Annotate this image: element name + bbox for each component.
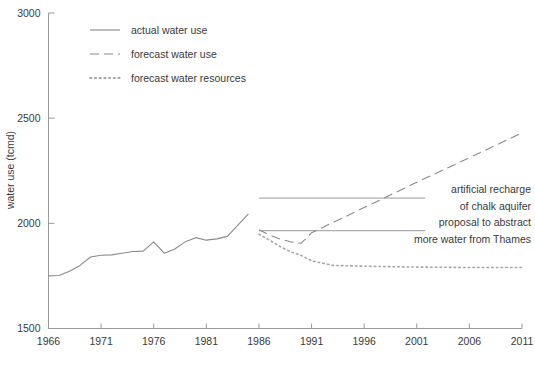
chart-container: 1500200025003000 19661971197619811986199… (0, 0, 535, 366)
x-tick-label: 1991 (300, 335, 324, 347)
x-tick-label: 1971 (89, 335, 113, 347)
x-axis-ticks (49, 324, 523, 329)
annotation-text-artificial-recharge-line2: of chalk aquifer (460, 200, 532, 212)
water-use-line-chart: 1500200025003000 19661971197619811986199… (0, 0, 535, 366)
data-series-group (49, 133, 523, 276)
y-axis-title: water use (tcmd) (4, 131, 16, 210)
y-axis-ticks (49, 13, 55, 329)
x-tick-label: 1966 (37, 335, 61, 347)
legend-label-0: actual water use (131, 24, 208, 36)
legend-label-2: forecast water resources (131, 72, 246, 84)
x-tick-label: 1976 (142, 335, 166, 347)
x-tick-label: 2011 (511, 335, 534, 347)
annotation-lines-group (259, 198, 425, 231)
annotation-text-artificial-recharge-line1: artificial recharge (451, 183, 531, 195)
x-tick-label: 1996 (352, 335, 376, 347)
y-axis-tick-labels: 1500200025003000 (17, 7, 41, 335)
chart-legend: actual water useforecast water useforeca… (90, 24, 246, 84)
y-tick-label: 2000 (17, 217, 41, 229)
annotation-labels-group: artificial rechargeof chalk aquiferpropo… (414, 183, 532, 245)
x-tick-label: 2001 (405, 335, 429, 347)
annotation-text-thames-abstraction-line2: more water from Thames (414, 233, 531, 245)
x-axis-tick-labels: 1966197119761981198619911996200120062011 (37, 335, 534, 347)
legend-label-1: forecast water use (131, 48, 217, 60)
x-tick-label: 2006 (458, 335, 482, 347)
axes-group (49, 13, 523, 329)
y-tick-label: 3000 (17, 7, 41, 19)
x-tick-label: 1986 (247, 335, 271, 347)
series-line-actual-water-use (49, 214, 249, 276)
y-tick-label: 2500 (17, 112, 41, 124)
y-tick-label: 1500 (17, 322, 41, 334)
annotation-text-thames-abstraction-line1: proposal to abstract (439, 216, 531, 228)
x-tick-label: 1981 (195, 335, 219, 347)
